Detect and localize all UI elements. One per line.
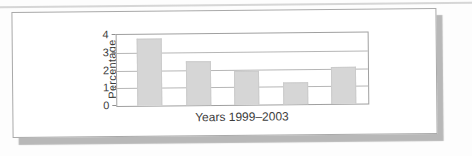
bar-2003 bbox=[331, 66, 356, 104]
y-tick-mark bbox=[112, 87, 116, 88]
y-tick-mark bbox=[112, 105, 116, 106]
bar-1999 bbox=[137, 38, 163, 106]
x-axis-title: Years 1999–2003 bbox=[116, 109, 367, 125]
chart-card: Percentage Years 1999–2003 43210 bbox=[11, 8, 437, 138]
bar-2001 bbox=[234, 71, 259, 105]
y-tick-label-4: 4 bbox=[89, 29, 109, 40]
y-tick-mark bbox=[112, 34, 116, 35]
y-tick-label-1: 1 bbox=[89, 82, 109, 93]
bar-2000 bbox=[185, 61, 210, 106]
bar-2002 bbox=[283, 82, 308, 104]
y-tick-label-2: 2 bbox=[89, 65, 109, 76]
y-tick-mark bbox=[112, 70, 116, 71]
y-tick-label-0: 0 bbox=[89, 100, 109, 111]
y-tick-mark bbox=[112, 52, 116, 53]
y-tick-label-3: 3 bbox=[89, 47, 109, 58]
plot-area bbox=[116, 32, 370, 107]
